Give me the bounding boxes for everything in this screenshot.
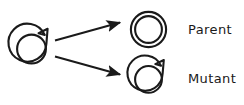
parent-label: Parent bbox=[188, 22, 232, 37]
diagram-svg: Parent Mutant bbox=[0, 0, 244, 105]
arrow-to-parent bbox=[55, 23, 120, 41]
mutant-label: Mutant bbox=[188, 71, 236, 86]
mutant-inner-ring-icon bbox=[135, 66, 162, 93]
source-inner-ring-icon bbox=[17, 35, 46, 64]
parent-inner-ring-icon bbox=[135, 16, 162, 43]
mutant-plasmid bbox=[127, 56, 163, 93]
source-outer-ring-icon bbox=[8, 24, 47, 62]
parent-plasmid bbox=[131, 12, 166, 47]
diagram-canvas: Parent Mutant bbox=[0, 0, 244, 105]
source-plasmid bbox=[8, 24, 47, 64]
parent-outer-ring-icon bbox=[131, 12, 166, 47]
mutant-outer-ring-icon bbox=[127, 56, 163, 91]
arrow-to-mutant bbox=[55, 57, 120, 75]
